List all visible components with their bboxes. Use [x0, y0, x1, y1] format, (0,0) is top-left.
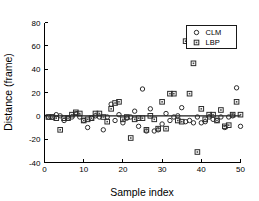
legend-marker-lbp-core — [196, 42, 198, 44]
x-tick-label: 20 — [118, 165, 127, 174]
y-tick-label: 40 — [32, 65, 41, 74]
data-point-lbp-core — [208, 114, 210, 116]
data-point-lbp-core — [142, 117, 144, 119]
y-tick-label: 80 — [32, 19, 41, 28]
data-point-lbp-core — [204, 119, 206, 121]
data-point-lbp-core — [130, 137, 132, 139]
data-point-lbp-core — [52, 116, 54, 118]
legend-label-lbp: LBP — [206, 38, 220, 47]
x-tick-label: 40 — [197, 165, 206, 174]
data-point-lbp-core — [161, 101, 163, 103]
data-point-lbp-core — [157, 128, 159, 130]
data-point-lbp-core — [212, 114, 214, 116]
data-point-lbp-core — [146, 129, 148, 131]
data-point-lbp-core — [138, 117, 140, 119]
data-point-lbp-core — [216, 120, 218, 122]
y-tick-label: -20 — [29, 135, 41, 144]
data-point-lbp-core — [189, 93, 191, 95]
data-point-lbp-core — [114, 102, 116, 104]
data-point-lbp-core — [193, 63, 195, 65]
data-point-lbp-core — [91, 117, 93, 119]
x-axis-label: Sample index — [110, 186, 174, 198]
data-point-lbp-core — [63, 117, 65, 119]
y-tick-label: -40 — [29, 159, 41, 168]
data-point-lbp-core — [55, 117, 57, 119]
data-point-lbp-core — [110, 108, 112, 110]
data-point-lbp-core — [106, 121, 108, 123]
data-point-lbp-core — [126, 116, 128, 118]
data-point-lbp-core — [169, 93, 171, 95]
y-tick-label: 60 — [32, 42, 41, 51]
data-point-lbp-core — [153, 119, 155, 121]
data-point-lbp-core — [48, 116, 50, 118]
data-point-lbp-core — [224, 126, 226, 128]
data-point-lbp-core — [87, 119, 89, 121]
data-point-lbp-core — [122, 119, 124, 121]
data-point-lbp-core — [181, 121, 183, 123]
data-point-lbp-core — [173, 93, 175, 95]
y-tick-label: 20 — [32, 89, 41, 98]
x-tick-label: 0 — [42, 165, 47, 174]
data-point-lbp-core — [177, 120, 179, 122]
x-tick-label: 30 — [158, 165, 167, 174]
x-tick-label: 50 — [236, 165, 245, 174]
y-axis-label: Distance (frame) — [2, 53, 14, 131]
data-point-lbp-core — [240, 114, 242, 116]
x-tick-label: 10 — [79, 165, 88, 174]
scatter-plot-figure: 01020304050-40-20020406080 CLMLBP Sample… — [0, 0, 259, 201]
data-point-lbp-core — [75, 112, 77, 114]
data-point-lbp-core — [83, 120, 85, 122]
data-point-lbp-core — [197, 151, 199, 153]
data-point-lbp-core — [71, 114, 73, 116]
data-point-lbp-core — [67, 117, 69, 119]
y-tick-label: 0 — [36, 112, 41, 121]
data-point-lbp-core — [236, 101, 238, 103]
data-point-lbp-core — [228, 124, 230, 126]
chart-canvas: 01020304050-40-20020406080 CLMLBP Sample… — [0, 0, 259, 201]
data-point-lbp-core — [201, 108, 203, 110]
chart-legend: CLMLBP — [187, 26, 237, 49]
data-point-lbp-core — [220, 109, 222, 111]
data-point-lbp-core — [99, 113, 101, 115]
data-point-lbp-core — [165, 128, 167, 130]
data-point-lbp-core — [103, 116, 105, 118]
legend-label-clm: CLM — [206, 28, 222, 37]
data-point-lbp-core — [232, 114, 234, 116]
data-point-lbp-core — [79, 113, 81, 115]
data-point-lbp-core — [134, 119, 136, 121]
data-point-lbp-core — [118, 101, 120, 103]
data-point-lbp-core — [95, 113, 97, 115]
data-point-lbp-core — [150, 115, 152, 117]
data-point-lbp-core — [59, 129, 61, 131]
